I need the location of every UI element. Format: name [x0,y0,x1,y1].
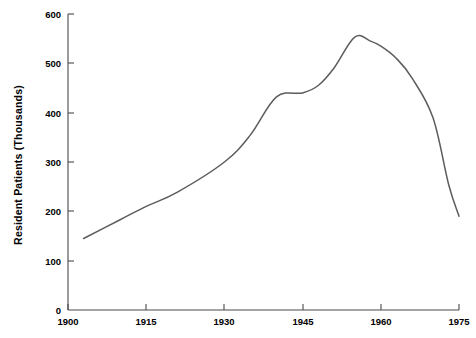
x-tick-label-1915: 1915 [135,316,157,327]
x-tick-label-1900: 1900 [57,316,78,327]
y-tick-label-500: 500 [45,58,61,69]
y-axis-title-group: Resident Patients (Thousands) [12,85,24,245]
x-axis: 1900 1915 1930 1945 1960 1975 [57,304,470,327]
data-series-group [84,36,459,239]
line-chart-plot: Resident Patients (Thousands) 600 500 40… [0,0,476,338]
y-tick-label-0: 0 [56,305,61,316]
y-tick-label-400: 400 [45,108,61,119]
data-line-resident-patients [84,36,459,239]
y-tick-label-200: 200 [45,206,61,217]
chart-container: Resident Patients (Thousands) 600 500 40… [0,0,476,338]
x-tick-label-1975: 1975 [448,316,470,327]
y-axis: 600 500 400 300 200 100 0 [45,9,74,316]
y-tick-label-600: 600 [45,9,61,20]
x-tick-label-1945: 1945 [292,316,314,327]
y-axis-title: Resident Patients (Thousands) [12,85,24,245]
x-tick-label-1960: 1960 [370,316,391,327]
x-tick-label-1930: 1930 [213,316,234,327]
y-tick-label-300: 300 [45,157,61,168]
y-tick-label-100: 100 [45,256,61,267]
